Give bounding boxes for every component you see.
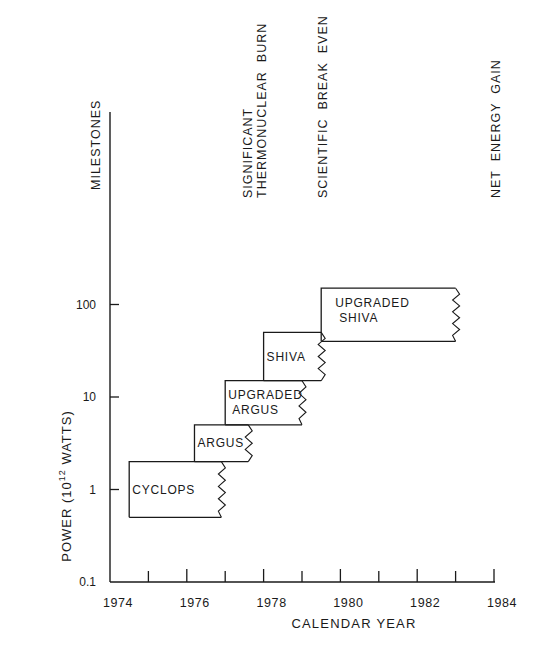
y-tick-label: 10 (83, 390, 97, 404)
milestone-label: NET ENERGY GAIN (489, 59, 503, 198)
system-label: SHIVA (339, 311, 378, 325)
milestone-label: THERMONUCLEAR BURN (255, 23, 269, 198)
system-box-shiva: SHIVA (264, 332, 326, 380)
system-label: ARGUS (232, 403, 279, 417)
system-label: SHIVA (267, 350, 306, 364)
y-ticks: 0.1110100 (76, 298, 119, 590)
x-tick-label: 1974 (103, 596, 133, 610)
x-tick-label: 1980 (333, 596, 363, 610)
milestone-label: SCIENTIFIC BREAK EVEN (316, 15, 330, 198)
system-box-argus: ARGUS (194, 425, 252, 462)
chart: 0.1110100 197419761978198019821984 CYCLO… (0, 0, 543, 660)
milestones: MILESTONESSIGNIFICANTTHERMONUCLEAR BURNS… (89, 15, 503, 198)
y-tick-label: 100 (76, 298, 96, 312)
system-box-upgraded-argus: UPGRADEDARGUS (225, 381, 306, 425)
x-ticks: 197419761978198019821984 (103, 569, 517, 610)
x-tick-label: 1978 (256, 596, 286, 610)
system-box-cyclops: CYCLOPS (129, 462, 225, 518)
system-boxes: CYCLOPSARGUSUPGRADEDARGUSSHIVAUPGRADEDSH… (129, 288, 459, 517)
system-label: UPGRADED (335, 296, 409, 310)
x-tick-label: 1976 (180, 596, 210, 610)
y-tick-label: 0.1 (79, 575, 96, 589)
x-axis-label: CALENDAR YEAR (291, 616, 416, 631)
x-tick-label: 1984 (487, 596, 517, 610)
milestones-header: MILESTONES (89, 100, 103, 190)
milestone-label: SIGNIFICANT (241, 108, 255, 198)
x-tick-label: 1982 (410, 596, 440, 610)
y-tick-label: 1 (89, 483, 96, 497)
system-label: CYCLOPS (132, 483, 195, 497)
system-label: ARGUS (197, 436, 244, 450)
y-axis-label: POWER (1012 WATTS) (57, 410, 74, 562)
system-box-upgraded-shiva: UPGRADEDSHIVA (321, 288, 459, 341)
system-label: UPGRADED (228, 388, 302, 402)
